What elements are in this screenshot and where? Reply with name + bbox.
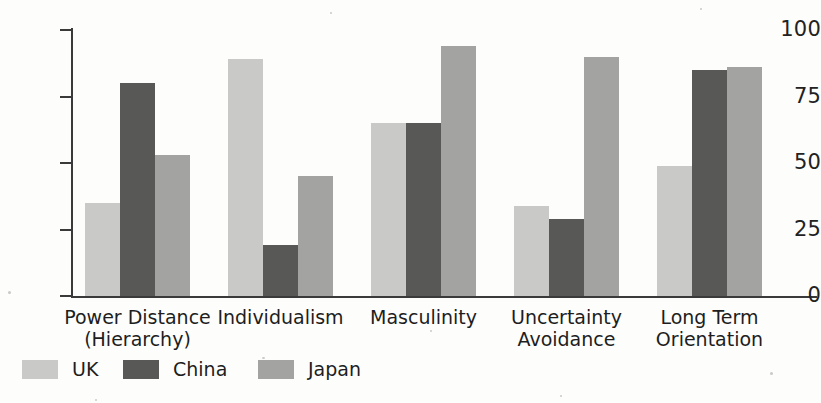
speckle-dot [8, 291, 11, 294]
bar [692, 70, 727, 296]
bar [155, 155, 190, 296]
legend-label: China [173, 360, 227, 379]
bar [298, 176, 333, 296]
bar [263, 245, 298, 296]
legend-item: Japan [258, 357, 361, 381]
legend-swatch [123, 360, 159, 379]
speckle-dot [700, 8, 702, 10]
bar-chart: 0255075100 Power Distance (Hierarchy)Ind… [0, 0, 821, 403]
y-tick-mark [60, 162, 72, 164]
y-tick-mark [60, 229, 72, 231]
speckle-dot [330, 12, 332, 14]
speckle-dot [430, 330, 432, 332]
bars-layer [72, 30, 817, 296]
bar [549, 219, 584, 296]
legend-item: UK [22, 357, 98, 381]
speckle-dot [95, 399, 97, 401]
bar [584, 57, 619, 296]
legend-swatch [258, 360, 294, 379]
legend-item: China [123, 357, 227, 381]
legend-label: UK [72, 360, 98, 379]
bar [514, 206, 549, 296]
bar [406, 123, 441, 296]
y-tick-mark [60, 29, 72, 31]
bar [657, 166, 692, 296]
speckle-dot [770, 372, 773, 375]
speckle-dot [560, 395, 562, 397]
bar [441, 46, 476, 296]
x-axis-line [71, 296, 817, 298]
legend-swatch [22, 360, 58, 379]
bar [120, 83, 155, 296]
y-tick-mark [60, 96, 72, 98]
y-tick-mark [60, 295, 72, 297]
bar [727, 67, 762, 296]
bar [371, 123, 406, 296]
category-label: Long Term Orientation [620, 306, 800, 350]
bar [228, 59, 263, 296]
legend-label: Japan [308, 360, 361, 379]
bar [85, 203, 120, 296]
